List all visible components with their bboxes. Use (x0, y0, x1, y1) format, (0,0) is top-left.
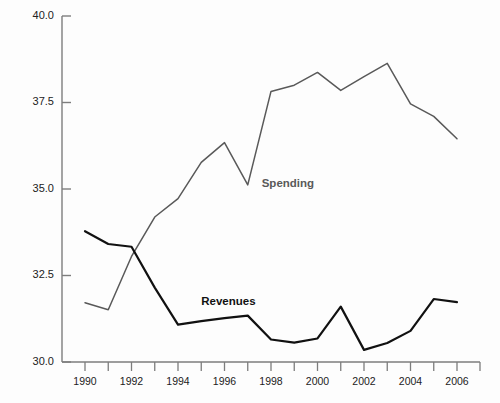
x-axis-tick-label: 1994 (155, 375, 201, 387)
chart-container: Percent 30.032.535.037.540.0 19901992199… (0, 0, 500, 403)
x-axis-tick-label: 1996 (202, 375, 248, 387)
x-axis-tick-label: 2002 (341, 375, 387, 387)
x-axis-tick-label: 1990 (62, 375, 108, 387)
series-layer (85, 63, 457, 349)
x-axis-tick-label: 1992 (109, 375, 155, 387)
series-line-revenues (85, 231, 457, 350)
series-label-revenues: Revenues (201, 295, 255, 307)
y-axis-tick-label: 37.5 (14, 95, 54, 107)
x-axis-tick-label: 1998 (248, 375, 294, 387)
y-axis-tick-label: 30.0 (14, 355, 54, 367)
y-axis-tick-label: 32.5 (14, 268, 54, 280)
x-axis-tick-label: 2006 (434, 375, 480, 387)
y-axis-tick-label: 35.0 (14, 182, 54, 194)
x-axis-tick-label: 2000 (295, 375, 341, 387)
y-axis-tick-label: 40.0 (14, 9, 54, 21)
series-label-spending: Spending (262, 177, 314, 189)
x-axis-tick-label: 2004 (388, 375, 434, 387)
line-chart-plot (0, 0, 500, 403)
axis-layer (62, 16, 480, 371)
